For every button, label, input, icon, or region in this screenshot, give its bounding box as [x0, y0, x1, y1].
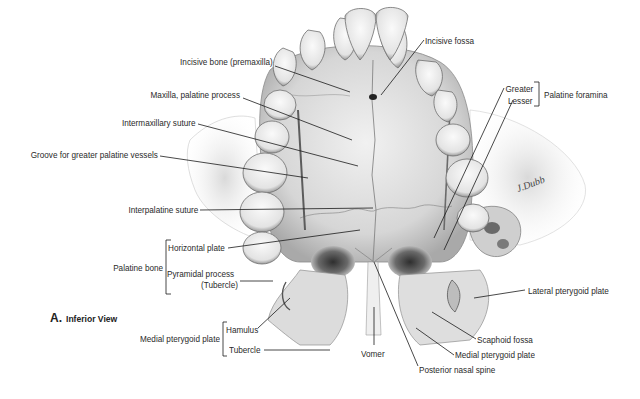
- label-horizontal-plate: Horizontal plate: [168, 242, 225, 253]
- pterygoid-plates-right: [398, 270, 488, 345]
- label-intermaxillary-suture: Intermaxillary suture: [122, 117, 196, 128]
- label-medial-pterygoid-plate-group: Medial pterygoid plate: [140, 333, 220, 344]
- label-interpalatine-suture: Interpalatine suture: [128, 204, 198, 215]
- label-groove-greater-palatine: Groove for greater palatine vessels: [31, 149, 158, 160]
- label-lesser: Lesser: [508, 95, 533, 106]
- label-palatine-foramina: Palatine foramina: [544, 89, 608, 100]
- label-medial-pterygoid-plate: Medial pterygoid plate: [455, 349, 535, 360]
- label-pyramidal-process: Pyramidal process: [167, 268, 234, 279]
- label-scaphoid-fossa: Scaphoid fossa: [477, 334, 533, 345]
- panel-title: A. Inferior View: [50, 308, 123, 326]
- label-tubercle: Tubercle: [229, 344, 260, 355]
- label-posterior-nasal-spine: Posterior nasal spine: [419, 364, 495, 375]
- label-hamulus: Hamulus: [226, 324, 258, 335]
- label-lateral-pterygoid-plate: Lateral pterygoid plate: [528, 285, 609, 296]
- label-vomer: Vomer: [361, 348, 385, 359]
- label-pyramidal-tubercle: (Tubercle): [201, 279, 238, 290]
- label-maxilla-palatine-process: Maxilla, palatine process: [151, 89, 240, 100]
- palate-illustration: J.Dubb: [0, 0, 640, 399]
- panel-title-text: Inferior View: [66, 313, 117, 324]
- label-incisive-fossa: Incisive fossa: [425, 35, 474, 46]
- label-incisive-bone: Incisive bone (premaxilla): [180, 56, 273, 67]
- panel-letter: A.: [50, 311, 62, 325]
- label-greater: Greater: [505, 83, 533, 94]
- label-palatine-bone: Palatine bone: [113, 262, 163, 273]
